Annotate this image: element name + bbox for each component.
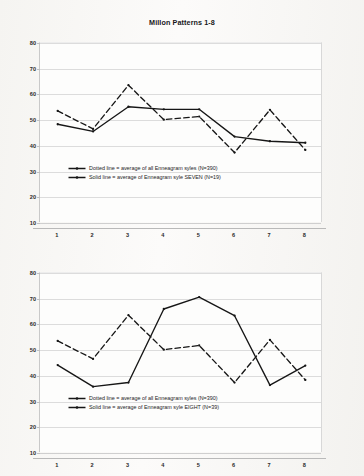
chart-2-container: 102030405060708012345678Dotted line = av… — [0, 240, 364, 476]
chart-2-series-2-point-6 — [233, 315, 235, 317]
chart-1-series-1-point-5 — [198, 115, 200, 117]
chart-2-series-1-point-7 — [269, 339, 271, 341]
chart-2-ytick-label-10: 10 — [30, 450, 36, 456]
chart-1-xtick-label-8: 8 — [303, 232, 306, 238]
chart-1-xtick-label-1: 1 — [55, 232, 58, 238]
chart-2-x-axis-line — [33, 458, 326, 459]
chart-2-gridline-10 — [40, 453, 321, 454]
chart-1-series-1-dashed-line — [58, 85, 306, 152]
chart-2-series-layer — [40, 273, 323, 453]
chart-1-series-2-point-2 — [92, 130, 94, 132]
chart-2-xtick-label-6: 6 — [232, 462, 235, 468]
chart-2-plot-wrap: 102030405060708012345678Dotted line = av… — [0, 240, 364, 476]
chart-2-xtick-label-1: 1 — [55, 462, 58, 468]
chart-2-series-1-point-8 — [304, 379, 306, 381]
chart-1-ytick-label-70: 70 — [30, 66, 36, 72]
chart-1-ytick-label-50: 50 — [30, 117, 36, 123]
chart-1-ytick-label-80: 80 — [30, 40, 36, 46]
chart-2-series-1-point-2 — [92, 358, 94, 360]
chart-2-legend: Dotted line = average of all Enneagram s… — [68, 394, 219, 412]
dashed-line-marker — [68, 395, 86, 402]
chart-1-ytick-label-60: 60 — [30, 91, 36, 97]
dashed-line-marker — [68, 165, 86, 172]
chart-2-series-2-point-3 — [127, 381, 129, 383]
chart-1-xtick-label-6: 6 — [232, 232, 235, 238]
chart-1-series-2-point-5 — [198, 108, 200, 110]
chart-2-series-2-solid-line — [58, 297, 306, 386]
chart-1-legend-label-2: Solid line = average of Enneagram syle S… — [89, 172, 221, 182]
chart-1-x-axis-line — [33, 228, 326, 229]
chart-1-legend-item-2: Solid line = average of Enneagram syle S… — [68, 173, 221, 182]
chart-2-ytick-label-80: 80 — [30, 270, 36, 276]
chart-2-ytick-label-50: 50 — [30, 347, 36, 353]
chart-1-series-2-point-3 — [127, 106, 129, 108]
chart-1-xtick-label-7: 7 — [267, 232, 270, 238]
chart-1-ytick-label-40: 40 — [30, 143, 36, 149]
chart-2-ytick-label-40: 40 — [30, 373, 36, 379]
chart-1-ytick-label-20: 20 — [30, 194, 36, 200]
chart-1-ytick-mark-10 — [37, 223, 40, 224]
chart-2-series-1-point-3 — [127, 314, 129, 316]
chart-2-series-2-point-5 — [198, 296, 200, 298]
chart-2-xtick-label-2: 2 — [91, 462, 94, 468]
chart-1-ytick-label-30: 30 — [30, 169, 36, 175]
chart-2-xtick-label-8: 8 — [303, 462, 306, 468]
chart-1-series-1-point-1 — [57, 110, 59, 112]
chart-2-ytick-label-20: 20 — [30, 424, 36, 430]
chart-2-series-1-point-1 — [57, 340, 59, 342]
chart-1-xtick-label-5: 5 — [197, 232, 200, 238]
chart-2-ytick-mark-10 — [37, 453, 40, 454]
chart-2-xtick-label-7: 7 — [267, 462, 270, 468]
chart-1-xtick-label-3: 3 — [126, 232, 129, 238]
chart-1-xtick-label-4: 4 — [161, 232, 164, 238]
chart-1-series-2-point-1 — [57, 123, 59, 125]
chart-2-series-2-point-2 — [92, 386, 94, 388]
chart-1-series-2-point-7 — [269, 140, 271, 142]
chart-1-series-2-point-6 — [233, 135, 235, 137]
chart-2-ytick-label-30: 30 — [30, 399, 36, 405]
chart-1-container: Millon Patterns 1-8 10203040506070801234… — [0, 0, 364, 240]
chart-2-xtick-label-3: 3 — [126, 462, 129, 468]
chart-1-ytick-label-10: 10 — [30, 220, 36, 226]
chart-1-series-layer — [40, 43, 323, 223]
chart-2-legend-item-2: Solid line = average of Enneagram syle E… — [68, 403, 219, 412]
solid-line-marker — [68, 174, 86, 181]
solid-line-marker — [68, 404, 86, 411]
chart-2-legend-label-2: Solid line = average of Enneagram syle E… — [89, 402, 219, 412]
chart-1-series-1-point-6 — [233, 151, 235, 153]
chart-1-series-1-point-3 — [127, 84, 129, 86]
chart-1-plot-wrap: 102030405060708012345678Dotted line = av… — [0, 0, 364, 240]
chart-2-series-2-point-7 — [269, 384, 271, 386]
chart-1-series-1-point-4 — [163, 118, 165, 120]
chart-2-series-2-point-8 — [304, 364, 306, 366]
chart-2-series-1-point-5 — [198, 344, 200, 346]
chart-2-ytick-label-60: 60 — [30, 321, 36, 327]
chart-1-gridline-10 — [40, 223, 321, 224]
chart-1-xtick-label-2: 2 — [91, 232, 94, 238]
chart-2-series-1-point-6 — [233, 381, 235, 383]
chart-1-series-1-point-8 — [304, 149, 306, 151]
chart-2-series-2-point-1 — [57, 364, 59, 366]
chart-1-plot-area: 1020304050607080 — [39, 42, 322, 222]
chart-2-series-1-point-4 — [163, 348, 165, 350]
chart-2-series-2-point-4 — [163, 308, 165, 310]
chart-1-series-1-point-2 — [92, 128, 94, 130]
chart-1-legend: Dotted line = average of all Enneagram s… — [68, 164, 221, 182]
chart-2-ytick-label-70: 70 — [30, 296, 36, 302]
chart-2-series-1-dashed-line — [58, 315, 306, 382]
chart-2-plot-area: 1020304050607080 — [39, 272, 322, 452]
chart-2-xtick-label-5: 5 — [197, 462, 200, 468]
chart-1-series-2-point-8 — [304, 142, 306, 144]
chart-1-series-1-point-7 — [269, 109, 271, 111]
chart-1-series-2-point-4 — [163, 108, 165, 110]
chart-2-xtick-label-4: 4 — [161, 462, 164, 468]
